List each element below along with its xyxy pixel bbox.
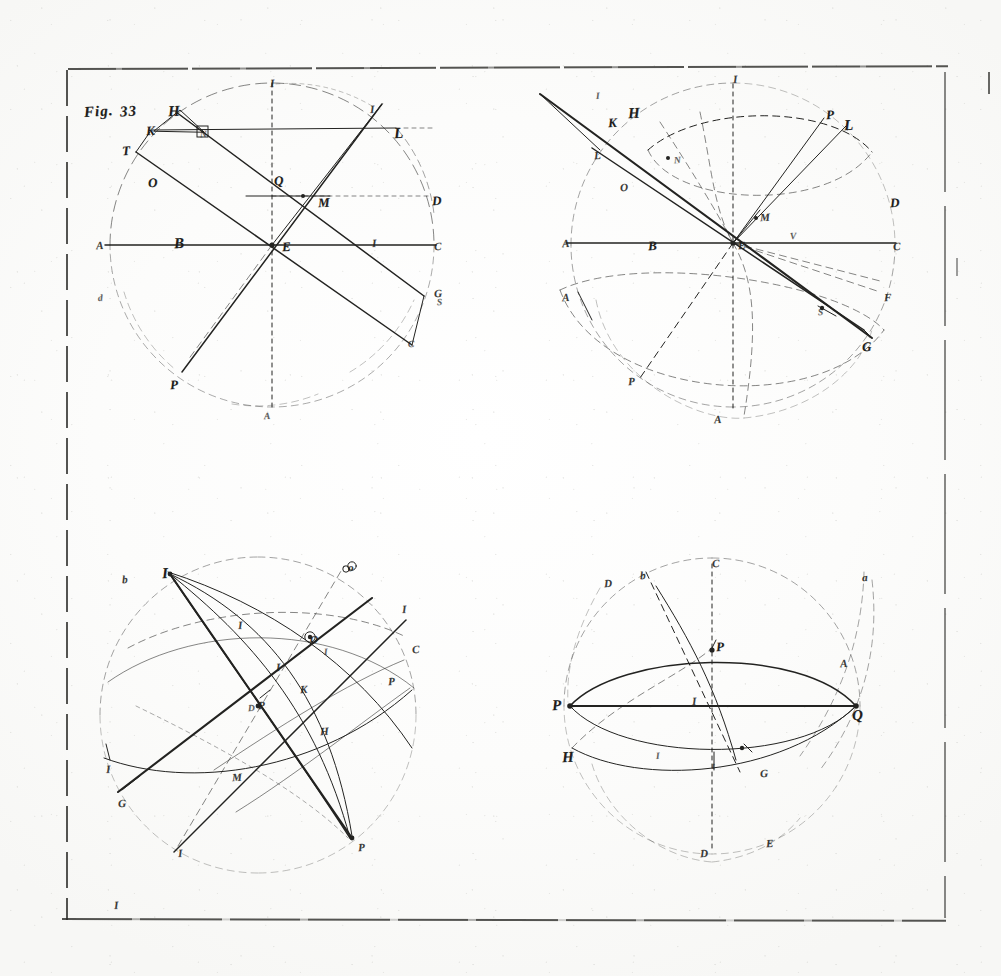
fig-bottom-left-label-k-9: K [300,684,308,695]
fig-bottom-right-label-t-11: t [712,762,715,772]
fig-top-right-label-k-2: K [608,116,617,129]
fig-top-right-label-d-9: D [890,196,900,209]
fig-top-right-label-f-17: F [884,292,892,303]
fig-bottom-right-label-a-3: a [862,572,868,583]
plate-drawing [0,0,1001,976]
fig-top-left-label-d-10: D [432,194,442,207]
fig-bottom-left-label-i-14: I [106,764,111,775]
fig-top-right-label-i-0: I [596,92,600,102]
fig-bottom-right-label-e-13: E [766,838,774,849]
fig-top-right-label-a-16: A [562,292,570,303]
fig-bottom-left-label-o-2: o [348,562,354,573]
fig-top-right-label-m-10: M [760,212,770,223]
fig-bottom-right-label-d-14: D [700,848,709,859]
fig-top-right-label-p-20: P [628,376,635,387]
fig-top-left-label-q-11: Q [274,174,284,187]
fig-top-left-label-i-16: I [372,238,377,249]
fig-top-right-label-i-1: I [733,74,738,85]
fig-bottom-left-label-m-15: M [232,772,242,783]
fig-bottom-right-label-p-4: P [716,640,725,653]
fig-top-left-label-e-15: E [282,240,291,253]
fig-bottom-left-label-i-3: I [238,620,243,631]
fig-bottom-left-label-i-8: I [324,648,328,658]
fig-top-right-label-l-6: L [594,150,601,161]
figure-top-right-strokes [540,83,896,418]
fig-top-left-label-h-2: H [168,104,180,120]
fig-bottom-left-label-b-0: b [122,574,128,585]
fig-top-left-label-p-22: P [170,378,179,391]
fig-bottom-left-label-i-1: I [162,566,169,581]
fig-bottom-left-label-o-5: O [310,634,319,645]
fig-top-right-label-a-21: A [714,414,722,425]
fig-bottom-right-label-p-7: P [552,698,562,713]
fig-bottom-right-label-h-9: H [562,750,574,766]
fig-top-left-label-a-13: A [96,240,104,251]
fig-bottom-right-label-g-12: G [760,768,769,779]
fig-top-left-label-d-20: d [98,294,103,304]
fig-bottom-right-label-i-6: I [692,696,697,707]
fig-bottom-left-label-d-12: D [248,704,255,714]
fig-top-right-label-g-19: G [862,340,872,353]
fig-top-left-label-i-8: I [370,104,375,115]
fig-top-left-label-a-23: A [264,412,271,422]
fig-bottom-right-label-i-10: I [656,752,660,762]
fig-top-left-label-m-12: M [318,196,330,210]
fig-top-left-label-c-21: C [408,340,415,350]
fig-bottom-right-label-b-1: b [640,570,646,581]
fig-top-right-label-a-11: A [562,238,570,249]
fig-top-left-label-s-19: S [437,298,443,308]
stray-label-i-0: I [114,900,119,911]
fig-top-left-label-o-6: O [148,176,158,189]
plate-page: Fig.33HKNTOIILDQMABEICGSdCPA IIKHPLLNODM… [0,0,1001,976]
figure-bottom-right-strokes [564,558,874,862]
fig-top-left-label-fig.-0: Fig. [84,103,114,120]
fig-top-right-label-o-8: O [620,182,629,193]
fig-top-right-label-v-15: V [790,232,797,242]
fig-bottom-right-label-q-8: Q [852,708,864,724]
fig-bottom-left-label-p-18: P [358,842,365,853]
fig-top-right-label-p-4: P [826,108,835,121]
fig-bottom-right-label-d-2: D [604,578,613,589]
fig-top-right-label-s-18: S [818,308,824,318]
fig-bottom-left-label-h-13: H [320,726,329,737]
fig-top-left-label-t-5: T [122,144,131,157]
fig-top-left-label-k-3: K [146,124,155,137]
fig-top-left-label-n-4: N [200,130,207,140]
fig-bottom-left-label-i-4: I [402,604,407,615]
fig-top-right-label-b-12: B [648,239,657,252]
fig-bottom-left-label-g-16: G [118,798,127,809]
fig-bottom-right-label-a-5: A [840,658,848,669]
fig-bottom-left-label-p-10: P [388,676,395,687]
figure-bottom-left-strokes [100,557,416,873]
fig-top-left-label-b-14: B [174,236,185,252]
fig-bottom-left-label-i-17: I [178,848,183,859]
fig-bottom-left-label-p-11: P [258,700,265,711]
fig-top-left-label-33-1: 33 [119,103,137,119]
fig-top-left-label-i-7: I [270,78,275,89]
fig-top-left-label-c-17: C [434,241,442,252]
fig-top-right-label-l-5: L [844,118,854,133]
fig-bottom-left-label-c-6: C [412,644,420,655]
fig-top-left-label-l-9: L [394,126,404,141]
fig-top-right-label-h-3: H [628,106,640,122]
fig-top-right-label-c-14: C [893,241,901,252]
fig-top-right-label-n-7: N [674,156,681,166]
fig-bottom-right-label-c-0: C [712,558,720,569]
fig-bottom-left-label-i-7: I [276,662,281,673]
fig-top-right-label-e-13: E [738,240,746,251]
